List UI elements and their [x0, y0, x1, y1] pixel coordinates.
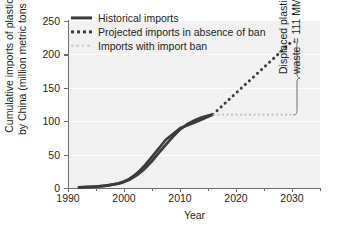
displaced-waste-annotation-line2: waste = 111 MMT — [290, 0, 303, 74]
legend-label-projected-imports: Projected imports in absence of ban — [98, 26, 266, 38]
y-tick-150 — [64, 88, 68, 89]
y-axis-title-line2: by China (million metric tons (MMT)) — [15, 0, 28, 138]
x-tick-label-2000: 2000 — [112, 192, 135, 204]
x-tick-label-2020: 2020 — [224, 192, 247, 204]
y-tick-200 — [64, 54, 68, 55]
gridline-50 — [68, 155, 320, 156]
y-tick-50 — [64, 155, 68, 156]
y-tick-label-0: 0 — [0, 182, 60, 194]
y-tick-250 — [64, 21, 68, 22]
displaced-waste-annotation-line1: Displaced plastic — [277, 0, 290, 74]
x-tick-label-2010: 2010 — [168, 192, 191, 204]
x-tick-2035 — [320, 188, 321, 191]
x-axis-line — [68, 188, 321, 189]
legend-item-imports-with-ban[interactable]: Imports with import ban — [71, 39, 266, 52]
y-tick-label-50: 50 — [0, 149, 60, 161]
legend-swatch-light-dotted-line-icon — [71, 40, 92, 51]
displaced-waste-annotation: Displaced plastic waste = 111 MMT — [277, 0, 302, 74]
x-tick-2005 — [152, 188, 153, 191]
x-tick-label-1990: 1990 — [56, 192, 79, 204]
legend-swatch-dark-dotted-line-icon — [71, 26, 92, 37]
y-axis-title: Cumulative imports of plastic waste by C… — [3, 0, 28, 138]
y-tick-100 — [64, 121, 68, 122]
legend-label-imports-with-ban: Imports with import ban — [98, 40, 207, 52]
legend-swatch-solid-line-icon — [71, 12, 92, 23]
chart-legend: Historical imports Projected imports in … — [71, 11, 266, 53]
x-axis-title: Year — [68, 209, 321, 221]
x-tick-1995 — [96, 188, 97, 191]
legend-item-historical-imports[interactable]: Historical imports — [71, 11, 266, 24]
gridline-150 — [68, 88, 320, 89]
y-axis-line — [68, 20, 69, 189]
x-tick-2015 — [208, 188, 209, 191]
gridline-100 — [68, 121, 320, 122]
x-tick-label-2030: 2030 — [280, 192, 303, 204]
legend-label-historical-imports: Historical imports — [98, 12, 179, 24]
x-tick-2025 — [264, 188, 265, 191]
legend-item-projected-imports[interactable]: Projected imports in absence of ban — [71, 25, 266, 38]
chart-figure: 250 200 150 100 50 0 1990 2000 2010 2020… — [0, 0, 339, 233]
y-axis-title-line1: Cumulative imports of plastic waste — [3, 0, 16, 138]
